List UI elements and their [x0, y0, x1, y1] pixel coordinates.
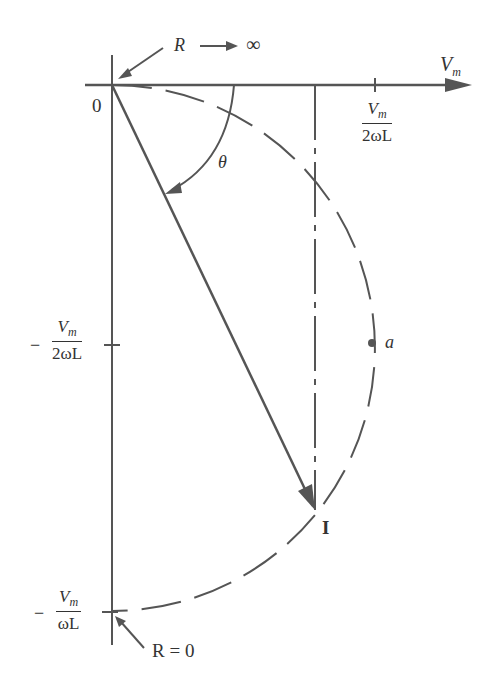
- theta-label: θ: [218, 153, 227, 171]
- y-bot-tick-label: Vm ωL: [56, 588, 81, 632]
- y-axis: [102, 55, 120, 645]
- point-a-marker: [368, 339, 376, 347]
- current-label: I: [322, 518, 329, 537]
- x-axis-label: Vm: [440, 54, 461, 78]
- r-zero-pointer: [121, 622, 144, 648]
- r-infinity-label-r: R: [174, 36, 185, 54]
- r-zero-label: R = 0: [152, 641, 194, 660]
- x-tick-denominator: 2ωL: [362, 124, 392, 144]
- y-bot-numerator: Vm: [56, 588, 81, 612]
- circle-locus: [112, 85, 375, 611]
- r-infinity-label-inf: ∞: [246, 34, 260, 54]
- r-zero-text: R = 0: [152, 640, 194, 661]
- y-mid-minus: −: [30, 335, 40, 356]
- y-bot-minus: −: [34, 603, 44, 624]
- y-mid-denominator: 2ωL: [52, 342, 82, 362]
- x-tick-label: Vm 2ωL: [362, 100, 392, 144]
- y-mid-tick-label: Vm 2ωL: [52, 318, 82, 362]
- x-axis: [85, 78, 472, 92]
- point-a-label: a: [385, 333, 394, 351]
- x-axis-label-sub: m: [452, 65, 461, 79]
- y-mid-numerator: Vm: [52, 318, 82, 342]
- x-axis-label-v: V: [440, 53, 452, 75]
- y-bot-denominator: ωL: [56, 612, 81, 632]
- origin-label: 0: [92, 96, 102, 115]
- r-infinity-pointer: [125, 48, 163, 74]
- x-tick-numerator: Vm: [362, 100, 392, 124]
